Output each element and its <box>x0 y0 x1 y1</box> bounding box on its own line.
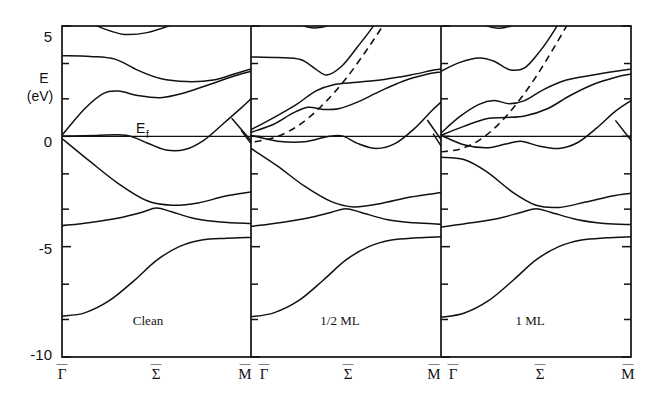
band-curve-band-upper-1 <box>274 8 358 28</box>
band-curve-band-upper-2 <box>441 8 566 71</box>
band-curve-band-valence-3 <box>62 237 251 316</box>
band-curve-band-upper-2 <box>62 56 251 82</box>
k-label-gamma-p1: Γ <box>260 366 269 382</box>
band-structure-svg: E (eV) 5 0 -5 -10 E f Clean 1/2 ML 1 ML … <box>0 0 649 398</box>
k-label-gamma-p2: Γ <box>449 366 458 382</box>
panel-title-one-ml: 1 ML <box>515 313 544 328</box>
band-curve-band-valence-2 <box>251 209 441 227</box>
panel-bands-1-2-ml <box>251 8 445 316</box>
plot-layer <box>54 8 631 317</box>
band-curve-band-valence-3 <box>251 237 441 317</box>
band-curve-band-valence-3 <box>441 237 631 318</box>
panel-bands-clean <box>54 8 254 316</box>
fermi-level-label-subscript: f <box>146 129 149 140</box>
k-label-sigma-p0: Σ <box>152 366 161 382</box>
band-curve-band-upper-3 <box>62 71 251 135</box>
band-curve-band-valence-2 <box>441 209 631 228</box>
k-label-m-p2: M <box>621 366 634 382</box>
panel-title-half-ml: 1/2 ML <box>320 313 359 328</box>
band-structure-figure: E (eV) 5 0 -5 -10 E f Clean 1/2 ML 1 ML … <box>0 0 649 398</box>
y-axis-title-line2: (eV) <box>27 88 53 104</box>
k-label-sigma-p2: Σ <box>536 366 545 382</box>
band-curve-band-upper-1 <box>62 8 213 34</box>
y-tick-label-0: 0 <box>44 133 52 150</box>
panel-bands-1-ml <box>441 8 631 317</box>
k-label-sigma-p1: Σ <box>344 366 353 382</box>
k-labels-panel-half-ml: ― Γ ― Σ ― M <box>258 357 441 382</box>
band-curve-band-fermi-1 <box>251 102 441 148</box>
k-label-m-p1: M <box>427 366 440 382</box>
band-curve-band-diag-right <box>616 121 631 140</box>
band-curve-band-dashed-parabola <box>441 8 580 151</box>
band-curve-band-fermi-1 <box>62 99 251 151</box>
fermi-level-label: E <box>136 120 145 136</box>
y-tick-label-minus5: -5 <box>39 240 52 257</box>
y-axis-title-line1: E <box>39 70 48 86</box>
k-label-gamma-p0: Γ <box>58 366 67 382</box>
y-tick-label-minus10: -10 <box>30 346 52 363</box>
band-curve-band-valence-1 <box>62 139 251 206</box>
plot-frame <box>62 26 631 357</box>
band-curve-band-upper-4 <box>441 74 631 135</box>
band-curve-band-diag-right-2 <box>242 131 255 149</box>
band-curve-band-valence-2 <box>62 208 251 226</box>
band-curve-band-upper-4 <box>251 72 441 132</box>
band-curve-band-valence-1 <box>441 157 631 207</box>
band-curve-band-valence-1 <box>251 148 441 207</box>
k-labels-panel-clean: ― Γ ― Σ ― M <box>56 357 252 382</box>
panel-title-clean: Clean <box>133 313 164 328</box>
band-curve-band-upper-2 <box>251 8 384 75</box>
y-tick-label-5: 5 <box>44 28 52 45</box>
k-labels-panel-one-ml: ― Γ ― Σ ― M <box>447 357 635 382</box>
tick-layer <box>62 26 631 357</box>
band-curve-band-diag-right <box>232 119 251 141</box>
band-curve-band-diag-up <box>54 115 62 136</box>
k-label-m-p0: M <box>238 366 251 382</box>
